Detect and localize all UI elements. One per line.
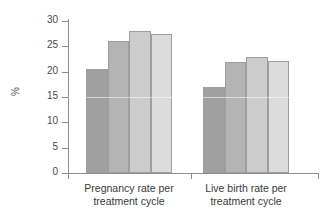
category-label: Live birth rate pertreatment cycle [176,182,316,208]
bar [268,61,290,173]
bar [246,57,268,173]
bar [108,41,130,173]
bar [203,87,225,173]
x-tick [68,173,69,179]
x-tick [318,173,319,179]
bar [129,31,151,173]
category-label-line: treatment cycle [176,195,316,208]
chart-page: % 051015202530 Pregnancy rate pertreatme… [0,0,325,214]
bar [225,62,247,173]
x-tick [191,173,192,179]
category-label-line: Live birth rate per [176,182,316,195]
bars-layer [0,0,325,174]
bar [86,69,108,173]
bar [151,34,173,173]
